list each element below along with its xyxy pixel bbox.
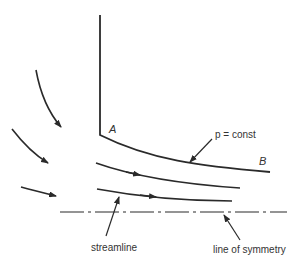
streamline-leader-arrow (106, 197, 119, 236)
flow-diagram: A B p = const streamline line of symmetr… (0, 0, 300, 267)
wall-boundary (100, 15, 270, 172)
flow-arrow-2 (12, 129, 48, 163)
symmetry-leader-arrow (224, 215, 240, 240)
pressure-leader-arrow (190, 139, 212, 162)
label-point-a: A (108, 123, 116, 135)
streamline-lower (97, 189, 232, 201)
label-line-of-symmetry: line of symmetry (213, 244, 286, 255)
flow-arrow-1 (36, 70, 61, 127)
streamline-upper-arrow (126, 172, 140, 175)
streamline-lower-arrow (140, 195, 156, 197)
flow-arrow-3 (21, 187, 56, 196)
label-pressure-const: p = const (215, 129, 256, 140)
label-streamline: streamline (91, 242, 138, 253)
label-point-b: B (259, 155, 266, 167)
